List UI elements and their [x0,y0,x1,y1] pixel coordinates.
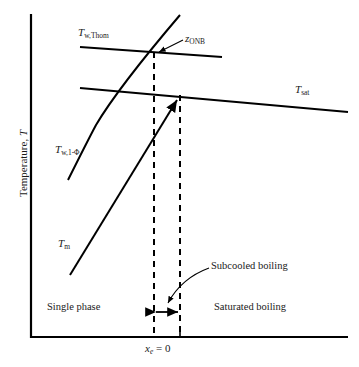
x-axis-tick-value: = 0 [153,342,170,354]
label-tw-single-phase-subscript: w,1-Φ [61,148,79,157]
label-tm: Tm [58,238,70,251]
label-tw-single-phase: Tw,1-Φ [55,144,80,157]
subcooled-leader-arrow [168,268,209,303]
z-onb-leader-arrow [159,40,183,52]
label-tsat: Tsat [295,84,309,97]
curve-tm [70,100,177,275]
label-subcooled-boiling: Subcooled boiling [211,261,288,272]
y-axis-title: Temperature, T [18,94,29,234]
axis-frame [31,14,348,337]
temperature-boiling-diagram: Temperature, T Tw,Thom zONB Tsat Tw,1-Φ … [0,0,359,367]
label-tw-thom-subscript: w,Thom [84,31,109,40]
label-saturated-boiling: Saturated boiling [214,302,286,313]
y-axis-title-symbol: T [17,130,29,136]
y-axis-title-prefix: Temperature, [17,136,29,197]
label-z-onb-subscript: ONB [189,37,205,46]
label-single-phase: Single phase [47,302,100,313]
label-tsat-subscript: sat [301,88,309,97]
label-tm-subscript: m [64,242,70,251]
label-z-onb: zONB [185,33,205,46]
x-axis-tick-label: xe = 0 [145,343,170,356]
label-tw-thom: Tw,Thom [78,27,109,40]
